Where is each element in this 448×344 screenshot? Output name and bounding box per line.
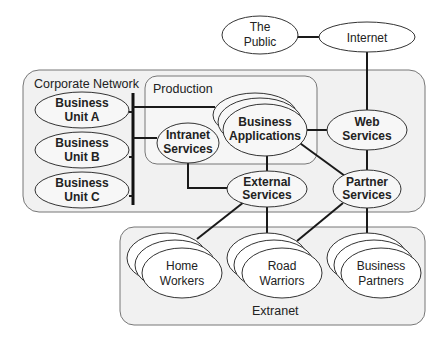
node-label: Partners xyxy=(358,274,403,288)
production-label: Production xyxy=(153,82,213,96)
node-label: Business xyxy=(238,115,292,129)
node-intranet-services[interactable]: Intranet Services xyxy=(157,123,219,163)
node-label: Unit C xyxy=(64,190,100,204)
node-label: Business xyxy=(357,259,406,273)
node-label: Applications xyxy=(229,129,301,143)
node-label: External xyxy=(243,175,290,189)
node-label: Services xyxy=(342,129,392,143)
node-label: Business xyxy=(55,176,109,190)
node-internet[interactable]: Internet xyxy=(319,22,415,52)
node-label: Services xyxy=(163,142,213,156)
node-label: The xyxy=(250,20,271,34)
node-label: Partner xyxy=(346,175,388,189)
node-label: Warriors xyxy=(260,274,305,288)
node-label: Services xyxy=(242,188,292,202)
node-label: Unit B xyxy=(64,150,100,164)
node-partner-services[interactable]: Partner Services xyxy=(333,170,401,208)
node-label: Unit A xyxy=(65,110,100,124)
node-label: Home xyxy=(166,259,198,273)
node-web-services[interactable]: Web Services xyxy=(327,110,407,150)
node-label: Business xyxy=(55,136,109,150)
node-label: Road xyxy=(268,259,297,273)
node-label: Intranet xyxy=(166,128,210,142)
node-business-unit-b[interactable]: Business Unit B xyxy=(35,132,129,168)
node-business-unit-a[interactable]: Business Unit A xyxy=(35,92,129,128)
node-label: Services xyxy=(342,188,392,202)
node-the-public[interactable]: The Public xyxy=(222,16,298,54)
node-external-services[interactable]: External Services xyxy=(227,171,307,207)
node-label: Public xyxy=(244,35,277,49)
node-label: Web xyxy=(354,115,379,129)
network-diagram: The Public Internet Corporate Network Pr… xyxy=(0,0,448,344)
node-label: Business xyxy=(55,96,109,110)
node-label: Internet xyxy=(347,31,388,45)
node-business-unit-c[interactable]: Business Unit C xyxy=(35,172,129,208)
extranet-label: Extranet xyxy=(252,304,299,318)
corporate-network-label: Corporate Network xyxy=(34,77,140,91)
node-label: Workers xyxy=(160,274,204,288)
